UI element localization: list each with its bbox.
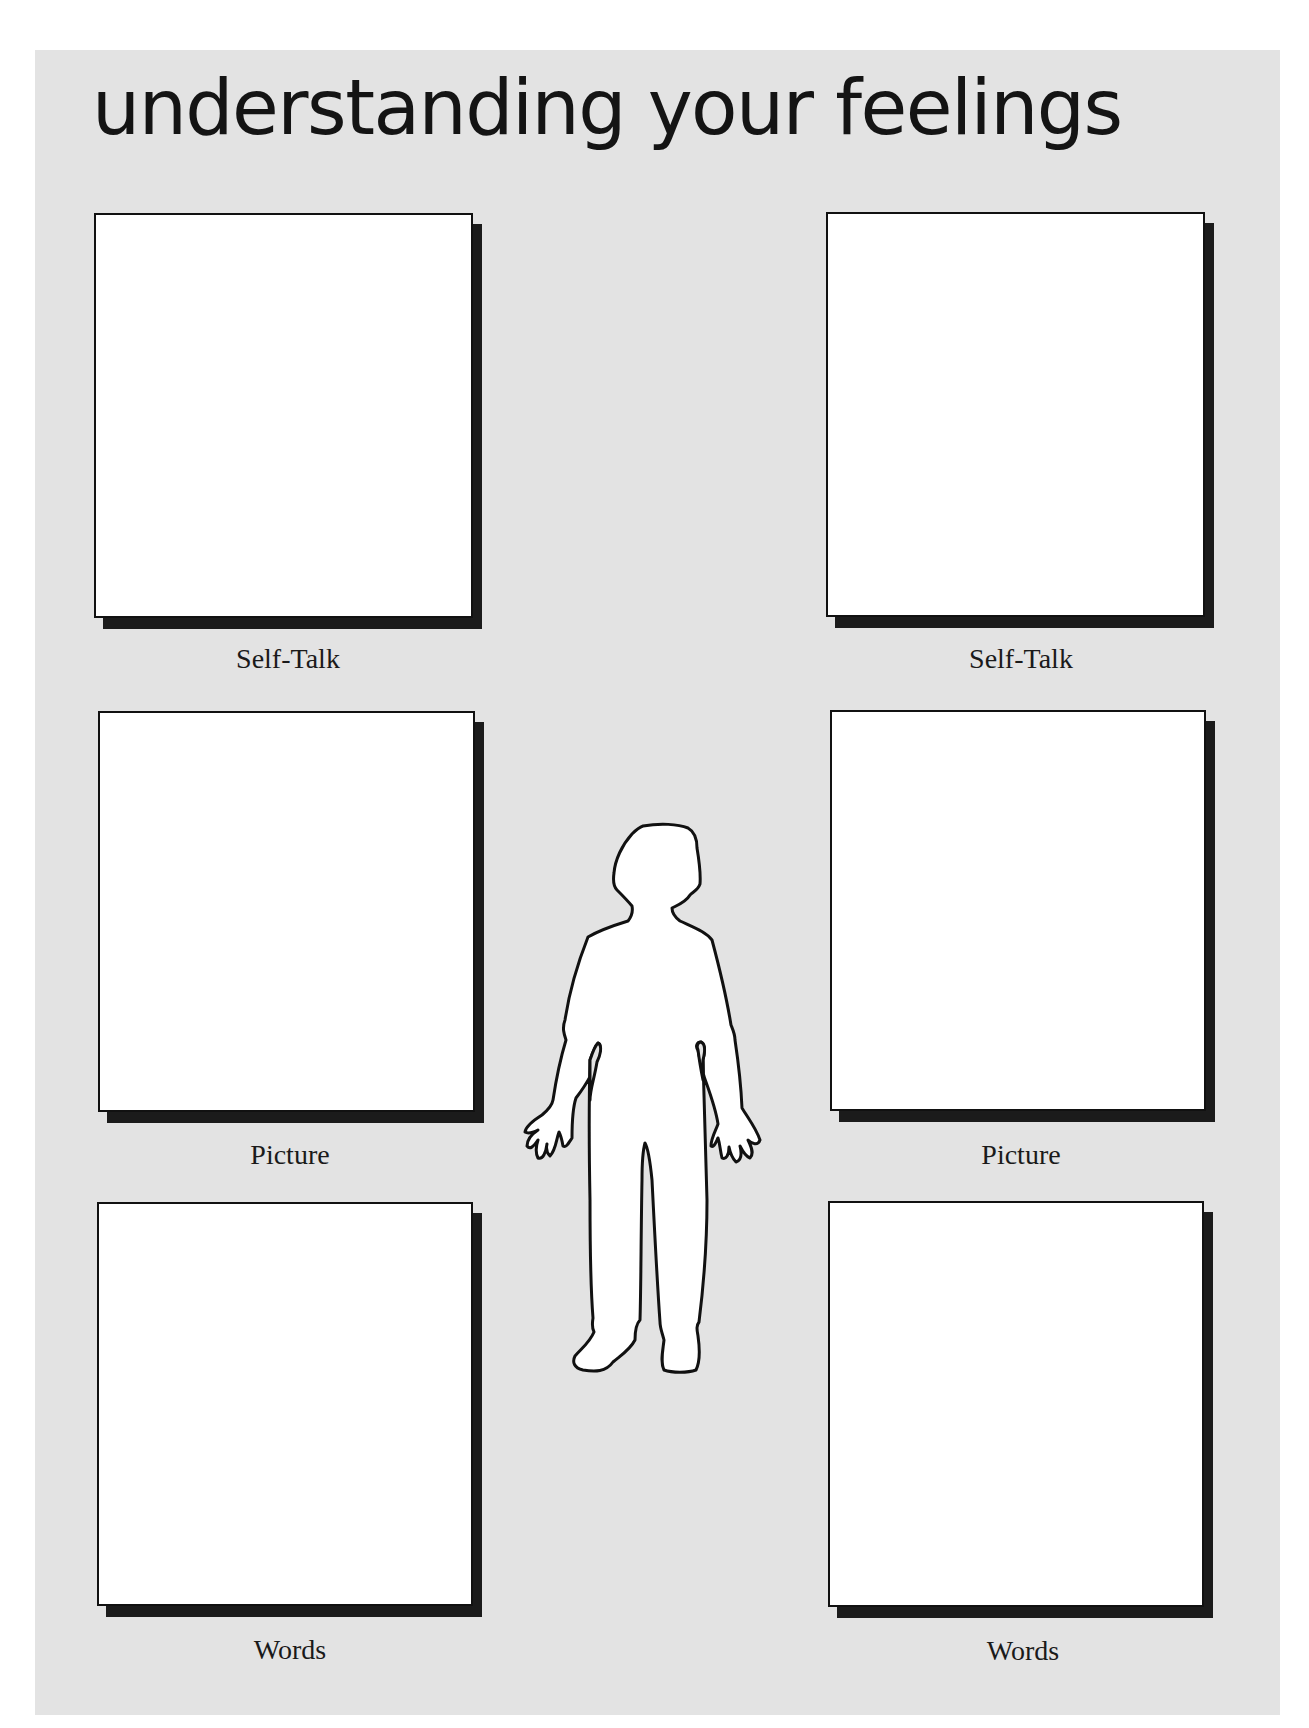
right-words-label: Words (873, 1635, 1173, 1667)
right-picture-box[interactable] (830, 710, 1206, 1111)
left-words-label: Words (140, 1634, 440, 1666)
right-words-box[interactable] (828, 1201, 1204, 1607)
left-words-box[interactable] (97, 1202, 473, 1606)
left-picture-box[interactable] (98, 711, 475, 1112)
right-self-talk-box[interactable] (826, 212, 1205, 617)
right-self-talk-label: Self-Talk (871, 643, 1171, 675)
left-self-talk-label: Self-Talk (138, 643, 438, 675)
left-picture-label: Picture (140, 1139, 440, 1171)
right-picture-label: Picture (871, 1139, 1171, 1171)
page-title: understanding your feelings (92, 58, 1227, 158)
left-self-talk-box[interactable] (94, 213, 473, 618)
